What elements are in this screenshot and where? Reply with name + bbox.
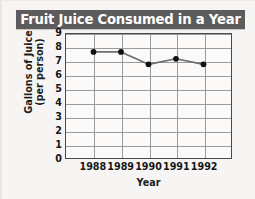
data-point-marker [173, 56, 179, 62]
y-axis-tick-labels: 0123456789 [50, 33, 62, 159]
data-series [66, 34, 231, 158]
data-point-marker [91, 49, 97, 55]
chart-title: Fruit Juice Consumed in a Year [16, 10, 245, 29]
y-tick-label: 1 [50, 140, 62, 150]
x-axis-tick-labels: 19881989199019911992 [65, 162, 232, 175]
y-axis-label-line-2: (per person) [34, 38, 45, 105]
y-tick-label: 9 [50, 28, 62, 38]
y-axis-label: Gallons of Juice (per person) [19, 18, 49, 126]
chart-figure: Fruit Juice Consumed in a Year Gallons o… [0, 0, 255, 199]
y-axis-label-line-1: Gallons of Juice [23, 30, 34, 113]
y-tick-label: 4 [50, 98, 62, 108]
y-tick-label: 7 [50, 56, 62, 66]
y-tick-label: 3 [50, 112, 62, 122]
y-tick-label: 0 [50, 154, 62, 164]
data-point-marker [146, 61, 152, 67]
y-tick-label: 2 [50, 126, 62, 136]
data-point-marker [201, 61, 207, 67]
y-tick-label: 5 [50, 84, 62, 94]
plot-area [65, 33, 232, 159]
x-tick-label: 1992 [187, 162, 221, 172]
data-point-marker [118, 49, 124, 55]
y-tick-label: 8 [50, 42, 62, 52]
x-axis-label: Year [65, 177, 232, 188]
y-tick-label: 6 [50, 70, 62, 80]
